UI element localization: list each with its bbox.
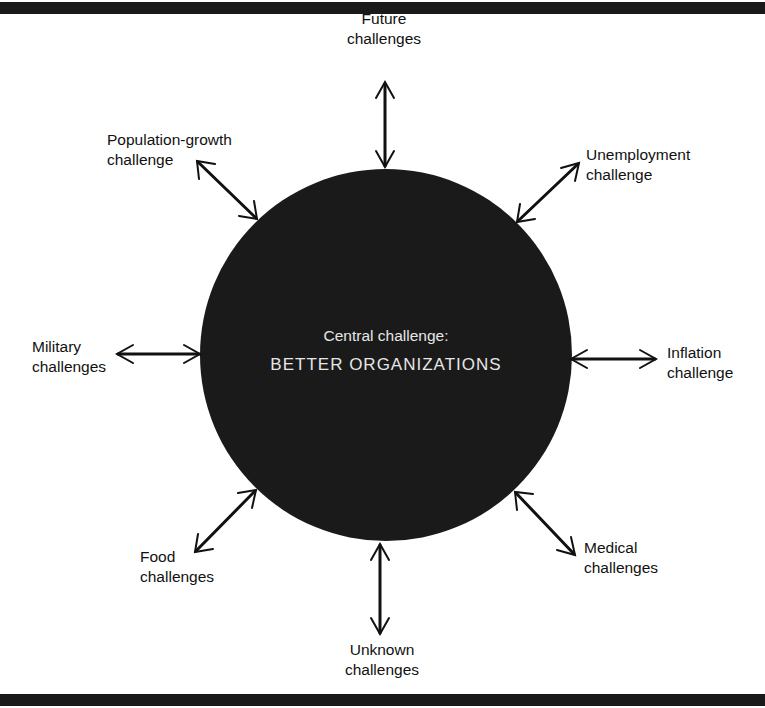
population-line1: Population-growth — [107, 130, 232, 150]
central-challenge-label: Central challenge: — [200, 327, 572, 345]
future-line1: Future — [334, 9, 434, 29]
medical-arrow-icon — [515, 492, 575, 555]
unemployment-line2: challenge — [586, 165, 690, 185]
food-line2: challenges — [140, 567, 214, 587]
inflation-challenge-label: Inflation challenge — [667, 343, 733, 383]
unemployment-line1: Unemployment — [586, 145, 690, 165]
food-challenges-label: Food challenges — [140, 547, 214, 587]
medical-challenges-label: Medical challenges — [584, 538, 658, 578]
unknown-challenges-label: Unknown challenges — [327, 640, 437, 680]
food-line1: Food — [140, 547, 214, 567]
unemployment-arrow-icon — [517, 163, 579, 222]
military-line2: challenges — [32, 357, 106, 377]
military-challenges-label: Military challenges — [32, 337, 106, 377]
central-challenge-title: BETTER ORGANIZATIONS — [200, 355, 572, 375]
future-arrow-icon — [376, 82, 394, 167]
unknown-line2: challenges — [327, 660, 437, 680]
inflation-arrow-icon — [571, 350, 656, 368]
medical-line2: challenges — [584, 558, 658, 578]
unknown-line1: Unknown — [327, 640, 437, 660]
medical-line1: Medical — [584, 538, 658, 558]
military-arrow-icon — [117, 345, 200, 363]
population-line2: challenge — [107, 150, 232, 170]
food-arrow-icon — [195, 490, 256, 552]
population-growth-challenge-label: Population-growth challenge — [107, 130, 232, 170]
future-line2: challenges — [334, 29, 434, 49]
military-line1: Military — [32, 337, 106, 357]
future-challenges-label: Future challenges — [334, 9, 434, 49]
inflation-line2: challenge — [667, 363, 733, 383]
unemployment-challenge-label: Unemployment challenge — [586, 145, 690, 185]
challenges-diagram — [0, 0, 765, 708]
unknown-arrow-icon — [371, 544, 389, 634]
inflation-line1: Inflation — [667, 343, 733, 363]
